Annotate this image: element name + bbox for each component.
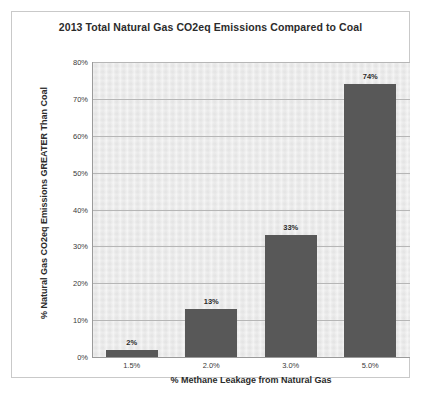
x-axis-tick-label: 5.0% [362,361,379,370]
bar-value-label: 74% [363,72,378,81]
bar-slot: 2% [92,62,172,357]
bar[interactable] [344,84,396,357]
bar-value-label: 13% [204,297,219,306]
bar-value-label: 2% [126,338,137,347]
x-axis-tick-label: 2.0% [203,361,220,370]
y-axis-tick-label: 40% [18,205,88,214]
x-axis-title: % Methane Leakage from Natural Gas [92,375,410,385]
y-axis-line [92,62,93,358]
y-axis-tick-label: 60% [18,131,88,140]
bar-slot: 74% [331,62,411,357]
y-axis-tick-labels: 0%10%20%30%40%50%60%70%80% [12,12,88,393]
x-axis-tick-label: 3.0% [282,361,299,370]
y-axis-tick-label: 70% [18,94,88,103]
bar-value-label: 33% [283,223,298,232]
bar[interactable] [185,309,237,357]
y-axis-tick-label: 80% [18,58,88,67]
x-axis-tick-label: 1.5% [123,361,140,370]
y-axis-tick-label: 0% [18,353,88,362]
chart-page-frame: 2013 Total Natural Gas CO2eq Emissions C… [11,11,410,378]
y-axis-tick-label: 50% [18,168,88,177]
x-axis-tick-labels: 1.5%2.0%3.0%5.0% [92,361,410,375]
plot-area: 2%13%33%74% [92,62,410,357]
bar[interactable] [106,350,158,357]
y-axis-tick-label: 10% [18,316,88,325]
bar[interactable] [265,235,317,357]
bar-slot: 33% [251,62,331,357]
bar-slot: 13% [172,62,252,357]
y-axis-tick-label: 20% [18,279,88,288]
y-axis-tick-label: 30% [18,242,88,251]
x-axis-line [92,357,410,358]
